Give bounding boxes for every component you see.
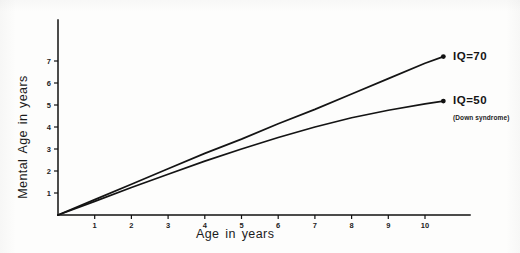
x-tick-label-6: 6 <box>276 221 280 230</box>
y-tick-label-5: 5 <box>36 101 51 110</box>
series-label-iq70: IQ=70 <box>453 50 487 62</box>
y-axis-title: Mental Age in years <box>16 62 30 212</box>
y-tick-label-2: 2 <box>36 167 51 176</box>
y-tick-label-7: 7 <box>36 57 51 66</box>
x-tick-label-10: 10 <box>421 221 429 230</box>
figure-canvas: 12345678910 1234567 Age in years Mental … <box>0 0 520 253</box>
line-chart-plot <box>0 0 520 253</box>
series-endpoint-iq50 <box>441 99 446 104</box>
x-tick-label-9: 9 <box>386 221 390 230</box>
x-tick-label-7: 7 <box>313 221 317 230</box>
x-tick-label-8: 8 <box>350 221 354 230</box>
series-line-iq70 <box>58 57 443 215</box>
series-group <box>58 54 446 215</box>
x-tick-label-3: 3 <box>166 221 170 230</box>
series-endpoint-iq70 <box>441 54 446 59</box>
x-tick-label-1: 1 <box>93 221 97 230</box>
y-tick-label-4: 4 <box>36 123 51 132</box>
series-label-iq50: IQ=50 <box>453 94 487 106</box>
series-line-iq50 <box>58 101 443 215</box>
x-tick-label-2: 2 <box>129 221 133 230</box>
y-tick-label-1: 1 <box>36 189 51 198</box>
x-axis-title: Age in years <box>196 227 274 241</box>
y-tick-label-6: 6 <box>36 79 51 88</box>
y-tick-label-3: 3 <box>36 145 51 154</box>
series-annotation-down-syndrome: (Down syndrome) <box>453 114 509 121</box>
axes-group <box>58 20 470 215</box>
